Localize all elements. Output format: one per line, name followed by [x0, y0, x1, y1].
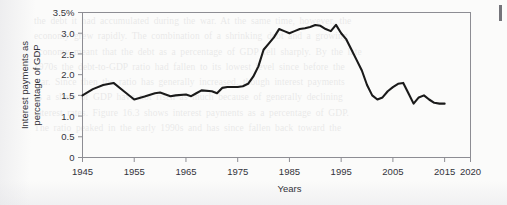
- y-tick-label: 2.0: [61, 69, 74, 80]
- figure-page: the debt it had accumulated during the w…: [0, 0, 507, 205]
- y-axis-title-line: percentage of GDP: [31, 44, 42, 125]
- scan-edge-artifact: [499, 5, 502, 21]
- y-axis-tick-labels: 00.51.01.52.02.53.03.5%: [53, 7, 75, 163]
- x-axis-title: Years: [277, 183, 301, 194]
- x-tick-label: 1995: [331, 166, 352, 177]
- y-axis-ticks: [78, 13, 83, 158]
- x-tick-label: 1965: [175, 166, 196, 177]
- y-tick-label: 0.5: [61, 131, 74, 142]
- x-tick-label: 2015: [434, 166, 455, 177]
- x-tick-label: 1955: [124, 166, 145, 177]
- x-tick-label: 1975: [227, 166, 248, 177]
- x-axis-ticks: [83, 158, 471, 163]
- line-chart: 00.51.01.52.02.53.03.5% 1945195519651975…: [0, 0, 507, 205]
- x-tick-label: 2020: [460, 166, 481, 177]
- x-tick-label: 2005: [382, 166, 403, 177]
- x-tick-label: 1985: [279, 166, 300, 177]
- y-axis-title-line: Interest payments as: [19, 41, 30, 129]
- y-tick-label: 1.5: [61, 90, 74, 101]
- y-tick-label: 3.5%: [53, 7, 75, 18]
- y-tick-label: 3.0: [61, 28, 74, 39]
- data-line: [83, 25, 445, 104]
- y-tick-label: 2.5: [61, 49, 74, 60]
- y-tick-label: 0: [69, 152, 74, 163]
- data-series-layer: [83, 25, 445, 104]
- x-axis-tick-labels: 194519551965197519851995200520152020: [72, 166, 481, 177]
- chart-svg: 00.51.01.52.02.53.03.5% 1945195519651975…: [0, 0, 507, 205]
- x-tick-label: 1945: [72, 166, 93, 177]
- y-tick-label: 1.0: [61, 111, 74, 122]
